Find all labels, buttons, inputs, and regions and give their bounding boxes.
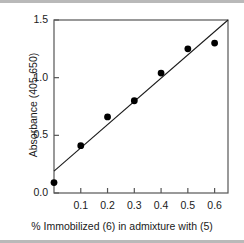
- plot-frame: [54, 20, 228, 193]
- data-point-marker: [51, 179, 58, 186]
- x-axis-tick-label: 0.1: [68, 199, 94, 211]
- y-axis-tick-label: 1.5: [22, 13, 48, 25]
- x-axis-label: % Immobilized (6) in admixture with (5): [0, 220, 244, 232]
- y-axis-tick-label: 0.0: [22, 186, 48, 198]
- x-axis-tick-label: 0.4: [148, 199, 174, 211]
- data-point-marker: [158, 70, 165, 77]
- plot-frame-rect: [54, 20, 228, 193]
- x-axis-tick-label: 0.6: [202, 199, 228, 211]
- figure-container: 0.00.51.01.5 0.10.20.30.40.50.6 Absorban…: [0, 0, 244, 243]
- x-axis-tick-label: 0.5: [175, 199, 201, 211]
- data-point-marker: [211, 40, 218, 47]
- x-axis-tick-label: 0.3: [121, 199, 147, 211]
- data-point-marker: [184, 45, 191, 52]
- data-point-marker: [77, 142, 84, 149]
- y-axis-label: Absorbance (405-650): [27, 25, 39, 185]
- x-axis-tick-label: 0.2: [95, 199, 121, 211]
- data-point-marker: [131, 97, 138, 104]
- data-points: [51, 40, 218, 186]
- data-point-marker: [104, 113, 111, 120]
- x-axis-ticks: [81, 188, 215, 193]
